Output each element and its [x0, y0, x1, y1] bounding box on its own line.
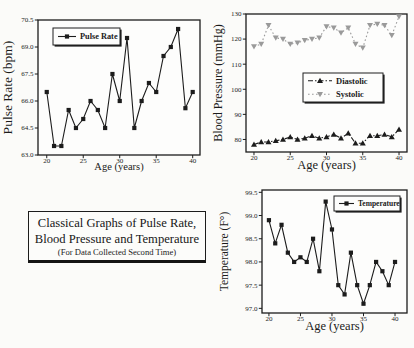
temperature-ytick: 98.0	[245, 258, 258, 266]
blood-pressure-ylabel: Blood Pressure (mmHg)	[211, 24, 225, 141]
caption-title-line-1: Classical Graphs of Pulse Rate,	[29, 215, 205, 231]
pulse-rate-ylabel: Pulse Rate (bpm)	[0, 41, 15, 135]
temperature-ytick: 97.0	[245, 305, 258, 313]
blood-pressure-xtick: 40	[396, 154, 404, 162]
temperature-xtick: 20	[265, 315, 273, 323]
blood-pressure-xtick: 20	[250, 154, 258, 162]
temperature-ylabel: Temperature (F°)	[218, 212, 231, 292]
blood-pressure-ytick: 100	[231, 86, 242, 94]
pulse-rate-xtick: 35	[153, 157, 161, 165]
temperature-xtick: 40	[392, 315, 400, 323]
blood-pressure-ytick: 120	[231, 35, 242, 43]
blood-pressure-ytick: 90	[235, 111, 243, 119]
pulse-rate-legend: Pulse Rate	[53, 28, 122, 47]
pulse-rate-ytick: 67.5	[21, 70, 34, 78]
pulse-rate-chart: 202530354063.064.566.067.569.070.5Age (y…	[0, 16, 200, 172]
temperature-ytick: 99.5	[245, 189, 258, 197]
pulse-rate-legend-label: Pulse Rate	[80, 32, 118, 41]
blood-pressure-xlabel: Age (years)	[297, 158, 356, 172]
temperature-xtick: 25	[297, 315, 305, 323]
temperature-ytick: 99.0	[245, 212, 258, 220]
temperature-ytick: 97.5	[245, 282, 258, 290]
figure-page: 202530354063.064.566.067.569.070.5Age (y…	[0, 0, 414, 348]
pulse-rate-ytick: 69.0	[21, 43, 34, 51]
blood-pressure-ytick: 110	[231, 61, 242, 69]
pulse-rate-ytick: 63.0	[21, 151, 34, 159]
blood-pressure-legend-label: Systolic	[336, 89, 364, 99]
caption-box: Classical Graphs of Pulse Rate, Blood Pr…	[28, 211, 206, 263]
temperature-legend: Temperature	[334, 196, 402, 213]
temperature-chart: 202530354097.097.598.098.599.099.5Age (y…	[218, 189, 407, 333]
pulse-rate-xlabel: Age (years)	[94, 161, 144, 173]
blood-pressure-chart: 20253035408090100110120130Age (years)Blo…	[211, 10, 407, 171]
pulse-rate-ytick: 64.5	[21, 124, 34, 132]
pulse-rate-ytick: 70.5	[21, 16, 34, 24]
blood-pressure-xtick: 25	[287, 154, 295, 162]
blood-pressure-xtick: 35	[359, 154, 367, 162]
blood-pressure-legend-label: Diastolic	[336, 76, 368, 86]
temperature-legend-label: Temperature	[358, 199, 400, 208]
pulse-rate-ytick: 66.0	[21, 97, 34, 105]
blood-pressure-ytick: 80	[235, 136, 243, 144]
caption-subtitle: (For Data Collected Second Time)	[29, 247, 205, 258]
blood-pressure-legend: DiastolicSystolic	[303, 73, 385, 104]
blood-pressure-ytick: 130	[231, 10, 242, 18]
temperature-ytick: 98.5	[245, 235, 258, 243]
pulse-rate-xtick: 20	[43, 157, 51, 165]
temperature-xlabel: Age (years)	[305, 319, 364, 333]
pulse-rate-xtick: 25	[80, 157, 88, 165]
figure-canvas: 202530354063.064.566.067.569.070.5Age (y…	[0, 0, 414, 348]
caption-title-line-2: Blood Pressure and Temperature	[29, 231, 205, 247]
pulse-rate-xtick: 40	[189, 157, 197, 165]
